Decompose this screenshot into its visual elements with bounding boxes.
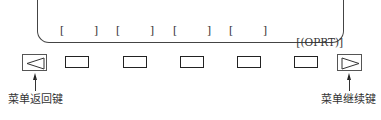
leader-line [349,78,350,91]
leader-line [35,78,36,91]
bracket-close: ] [263,24,267,36]
bracket-open: [ [60,24,64,36]
soft-key-3[interactable] [180,56,204,68]
soft-key-4[interactable] [237,56,261,68]
bracket-open: [ [229,24,233,36]
triangle-left-icon [23,55,48,72]
menu-return-key[interactable] [22,54,47,71]
menu-continue-key[interactable] [337,54,362,71]
bracket-close: ] [207,24,211,36]
menu-continue-caption: 菜单继续键 [321,93,376,107]
bracket-close: ] [339,36,343,48]
soft-key-label-2: [ ] [116,24,154,84]
bracket-close: ] [94,24,98,36]
soft-key-label-4: [ ] [229,24,267,84]
soft-key-label-1: [ ] [60,24,98,84]
soft-key-label-oprt: [(OPRT)] [283,24,343,60]
soft-key-2[interactable] [123,56,147,68]
label-text: (OPRT) [300,36,339,48]
bracket-close: ] [150,24,154,36]
soft-key-1[interactable] [65,56,89,68]
soft-key-5[interactable] [294,56,318,68]
triangle-right-icon [338,55,363,72]
soft-key-label-3: [ ] [173,24,211,84]
bracket-open: [ [173,24,177,36]
bracket-open: [ [116,24,120,36]
menu-return-caption: 菜单返回键 [8,93,63,107]
